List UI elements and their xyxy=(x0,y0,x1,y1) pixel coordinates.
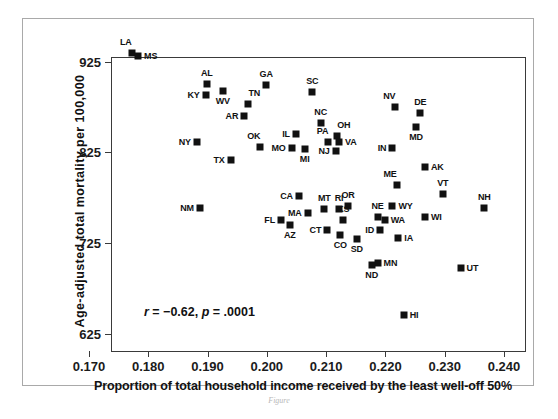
scatter-point-label: RI xyxy=(335,194,344,203)
scatter-point xyxy=(413,123,420,130)
x-tick xyxy=(445,351,446,357)
scatter-point-label: WV xyxy=(216,97,230,106)
scatter-point-label: MD xyxy=(409,133,423,142)
scatter-point-label: VA xyxy=(345,137,356,146)
scatter-point-label: WY xyxy=(398,201,412,210)
scatter-point xyxy=(332,148,339,155)
scatter-point xyxy=(277,216,284,223)
x-tick-label: 0.240 xyxy=(488,359,521,374)
y-axis-title: Age-adjusted total mortality per 100,000 xyxy=(73,46,87,356)
scatter-point-label: NH xyxy=(478,193,491,202)
x-tick xyxy=(504,351,505,357)
scatter-point xyxy=(340,216,347,223)
x-tick-label: 0.230 xyxy=(428,359,461,374)
scatter-point xyxy=(241,113,248,120)
x-tick-label: 0.170 xyxy=(73,359,106,374)
scatter-point xyxy=(393,182,400,189)
scatter-point-label: CO xyxy=(334,241,347,250)
scatter-point-label: NY xyxy=(179,137,191,146)
scatter-point-label: NC xyxy=(314,108,327,117)
scatter-point-label: ID xyxy=(365,226,374,235)
scatter-point xyxy=(422,213,429,220)
correlation-annotation: r = −0.62, p = .0001 xyxy=(144,305,255,319)
x-axis-title: Proportion of total household income rec… xyxy=(53,379,553,393)
scatter-point xyxy=(219,87,226,94)
scatter-point-label: AL xyxy=(201,69,213,78)
scatter-point-label: AR xyxy=(226,112,239,121)
scatter-point-label: CA xyxy=(280,191,293,200)
scatter-point-label: OK xyxy=(247,132,260,141)
scatter-point-label: SC xyxy=(306,77,318,86)
scatter-point xyxy=(353,235,360,242)
scatter-point xyxy=(381,216,388,223)
scatter-point-label: ND xyxy=(365,271,378,280)
x-tick-label: 0.190 xyxy=(191,359,224,374)
scatter-point xyxy=(324,226,331,233)
scatter-point-label: IA xyxy=(404,233,413,242)
scatter-point-label: WI xyxy=(431,212,442,221)
scatter-point-label: UT xyxy=(467,263,479,272)
scatter-point xyxy=(288,144,295,151)
scatter-point xyxy=(227,156,234,163)
scatter-point-label: TX xyxy=(213,155,224,164)
scatter-point-label: KS xyxy=(337,205,349,214)
scatter-point xyxy=(304,210,311,217)
scatter-point xyxy=(337,232,344,239)
x-tick-label: 0.180 xyxy=(132,359,165,374)
scatter-point xyxy=(376,227,383,234)
x-tick-label: 0.210 xyxy=(310,359,343,374)
scatter-point xyxy=(286,222,293,229)
scatter-point xyxy=(196,204,203,211)
scatter-point xyxy=(325,138,332,145)
r-value: = −0.62, xyxy=(149,305,202,319)
x-tick xyxy=(326,351,327,357)
figure-border: Age-adjusted total mortality per 100,000… xyxy=(22,18,534,386)
scatter-point xyxy=(457,264,464,271)
x-tick xyxy=(267,351,268,357)
scatter-point-label: MS xyxy=(144,52,157,61)
scatter-point-label: DE xyxy=(414,98,426,107)
scatter-point xyxy=(309,88,316,95)
scatter-point-label: MI xyxy=(300,155,310,164)
scatter-point xyxy=(400,311,407,318)
plot-area: LAMSALKYWVTNARGASCNVDEMDNCOHILPAVANYOKMO… xyxy=(111,57,526,352)
scatter-point-label: ME xyxy=(384,170,397,179)
scatter-point-label: NE xyxy=(372,202,384,211)
figure-caption: Figure xyxy=(0,396,558,405)
scatter-point xyxy=(193,138,200,145)
scatter-point-label: OH xyxy=(337,121,350,130)
scatter-point-label: SD xyxy=(351,245,363,254)
scatter-point xyxy=(374,213,381,220)
scatter-point-label: KY xyxy=(188,91,200,100)
scatter-point xyxy=(257,143,264,150)
x-tick xyxy=(208,351,209,357)
scatter-point xyxy=(202,92,209,99)
scatter-point xyxy=(263,82,270,89)
x-tick xyxy=(89,351,90,357)
scatter-point-label: HI xyxy=(410,310,419,319)
scatter-point xyxy=(481,204,488,211)
scatter-point-label: NV xyxy=(383,92,395,101)
scatter-point xyxy=(439,191,446,198)
scatter-point-label: CT xyxy=(310,225,322,234)
scatter-point-label: FL xyxy=(264,215,275,224)
figure-root: Age-adjusted total mortality per 100,000… xyxy=(0,0,558,419)
scatter-point-label: NJ xyxy=(318,147,329,156)
scatter-point xyxy=(389,202,396,209)
y-tick-label: 625 xyxy=(79,327,101,342)
y-tick-label: 725 xyxy=(79,236,101,251)
x-tick-label: 0.200 xyxy=(251,359,284,374)
scatter-point-label: GA xyxy=(260,70,273,79)
scatter-point xyxy=(395,234,402,241)
scatter-point-label: NM xyxy=(180,203,194,212)
scatter-point-label: AZ xyxy=(284,231,296,240)
x-tick xyxy=(148,351,149,357)
scatter-point-label: AK xyxy=(431,162,444,171)
scatter-point xyxy=(389,144,396,151)
scatter-point-label: PA xyxy=(317,127,328,136)
scatter-point xyxy=(422,163,429,170)
scatter-point-label: IN xyxy=(378,143,387,152)
scatter-point xyxy=(417,110,424,117)
scatter-point-label: MN xyxy=(384,259,398,268)
scatter-point xyxy=(292,131,299,138)
